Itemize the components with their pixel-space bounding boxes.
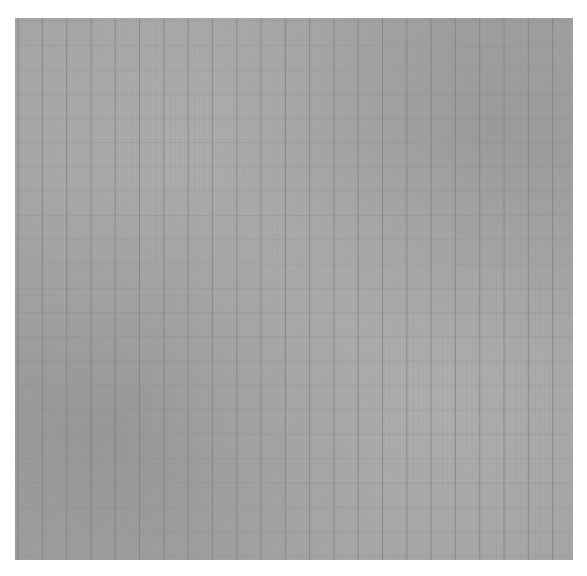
grid-lines-graphic	[15, 18, 573, 560]
grid-paper-photo	[15, 18, 573, 560]
grid-lines	[15, 18, 573, 560]
